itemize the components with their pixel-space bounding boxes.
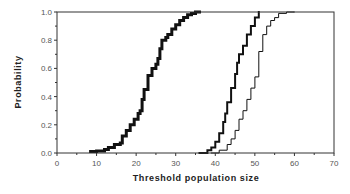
y-tick-label: 0.6 xyxy=(41,64,53,73)
cdf-chart: 0102030405060700.00.20.40.60.81.0 Thresh… xyxy=(0,0,350,194)
x-tick-label: 20 xyxy=(132,159,141,168)
x-tick-label: 30 xyxy=(171,159,180,168)
y-tick-label: 0.8 xyxy=(41,36,53,45)
series-line-2 xyxy=(200,12,259,153)
axes: 0102030405060700.00.20.40.60.81.0 xyxy=(41,8,339,168)
plot-frame xyxy=(57,12,334,153)
x-tick-label: 70 xyxy=(330,159,339,168)
y-tick-label: 0.2 xyxy=(41,121,53,130)
y-tick-label: 1.0 xyxy=(41,8,53,17)
x-axis-title: Threshold population size xyxy=(133,173,260,183)
x-tick-label: 50 xyxy=(250,159,259,168)
y-tick-label: 0.0 xyxy=(41,149,53,158)
series-layer xyxy=(91,12,295,153)
x-tick-label: 10 xyxy=(92,159,101,168)
x-tick-label: 60 xyxy=(290,159,299,168)
series-line-1 xyxy=(91,12,200,152)
y-axis-title: Probability xyxy=(13,55,23,108)
x-tick-label: 40 xyxy=(211,159,220,168)
x-tick-label: 0 xyxy=(55,159,60,168)
y-tick-label: 0.4 xyxy=(41,93,53,102)
